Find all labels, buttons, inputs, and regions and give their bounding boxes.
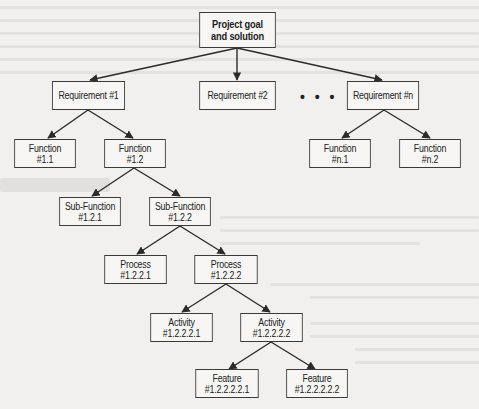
node-requirement-2: Requirement #2 xyxy=(199,81,276,110)
node-label: Function xyxy=(414,143,446,154)
node-process-1-2-2-1: Process #1.2.2.1 xyxy=(104,255,166,284)
arrow-a12222-ft122221 xyxy=(229,342,271,369)
node-label: Project goal xyxy=(212,18,263,30)
node-feature-1-2-2-2-2-1: Feature #1.2.2.2.2.1 xyxy=(195,369,258,398)
node-label: Process xyxy=(120,259,151,270)
node-label: Function xyxy=(29,143,61,154)
node-feature-1-2-2-2-2-2: Feature #1.2.2.2.2.2 xyxy=(286,369,348,398)
arrow-f12-sf121 xyxy=(92,168,134,196)
node-label: #1.2.2 xyxy=(168,212,191,223)
node-project-goal: Project goal and solution xyxy=(199,12,276,48)
arrow-root-reqn xyxy=(237,48,382,80)
node-function-1-1: Function #1.1 xyxy=(14,139,76,168)
node-label: #1.2.2.2 xyxy=(211,270,241,281)
node-label: Function xyxy=(119,143,151,154)
node-function-1-2: Function #1.2 xyxy=(104,139,166,168)
node-label: #n.1 xyxy=(332,154,348,165)
node-label: Feature xyxy=(302,373,331,384)
arrow-f12-sf122 xyxy=(134,168,180,196)
arrow-p1222-a12222 xyxy=(226,284,270,312)
node-requirement-1: Requirement #1 xyxy=(52,81,125,110)
node-label: Requirement #1 xyxy=(58,90,118,101)
node-activity-1-2-2-2-2: Activity #1.2.2.2.2 xyxy=(240,313,302,342)
node-label: Requirement #2 xyxy=(207,90,267,101)
arrow-root-req1 xyxy=(90,48,237,80)
node-label: Requirement #n xyxy=(353,90,413,101)
node-activity-1-2-2-2-1: Activity #1.2.2.2.1 xyxy=(150,313,212,342)
node-label: Process xyxy=(211,259,242,270)
node-label: #1.2.2.1 xyxy=(120,270,150,281)
node-label: Activity xyxy=(168,317,194,328)
node-label: Feature xyxy=(212,373,241,384)
node-function-n-2: Function #n.2 xyxy=(399,139,461,168)
node-function-n-1: Function #n.1 xyxy=(309,139,371,168)
node-label: Activity xyxy=(258,317,284,328)
node-process-1-2-2-2: Process #1.2.2.2 xyxy=(194,255,257,284)
node-label: #1.2.2.2.2.2 xyxy=(295,384,339,395)
arrow-a12222-ft122222 xyxy=(271,342,315,369)
node-requirement-n: Requirement #n xyxy=(347,81,419,110)
arrow-sf122-p1222 xyxy=(180,226,225,254)
arrow-reqn-fn1 xyxy=(342,110,384,138)
node-label: #1.2.2.2.1 xyxy=(163,328,200,339)
arrow-reqn-fn2 xyxy=(384,110,430,138)
node-label: #1.2.2.2.2 xyxy=(253,328,290,339)
node-label: #n.2 xyxy=(422,154,438,165)
arrow-sf122-p1221 xyxy=(137,226,180,254)
node-subfunction-1-2-1: Sub-Function #1.2.1 xyxy=(59,197,121,226)
arrow-req1-f11 xyxy=(48,110,88,138)
ellipsis-more-requirements: • • • xyxy=(300,89,337,105)
node-label: and solution xyxy=(211,30,264,42)
node-label: #1.2 xyxy=(127,154,143,165)
node-label: Sub-Function xyxy=(155,201,205,212)
arrow-req1-f12 xyxy=(88,110,133,138)
arrow-p1222-a12221 xyxy=(182,284,226,312)
node-label: #1.2.2.2.2.1 xyxy=(205,384,249,395)
node-label: Sub-Function xyxy=(65,201,115,212)
node-label: #1.2.1 xyxy=(78,212,101,223)
node-label: Function xyxy=(324,143,356,154)
node-subfunction-1-2-2: Sub-Function #1.2.2 xyxy=(149,197,211,226)
node-label: #1.1 xyxy=(37,154,53,165)
